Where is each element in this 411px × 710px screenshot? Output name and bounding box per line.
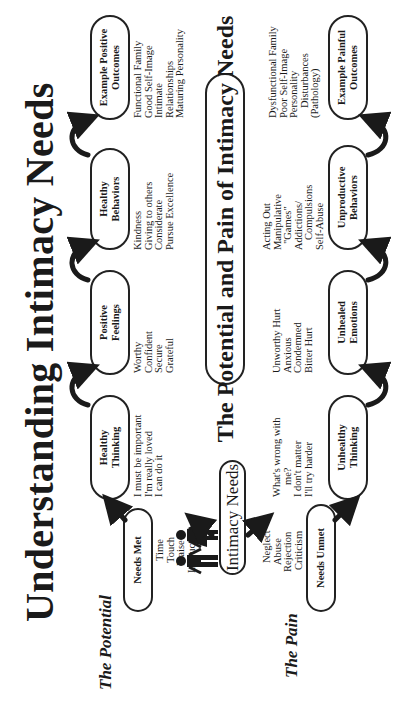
diagram-canvas: Understanding Intimacy Needs The Potenti…: [0, 0, 411, 710]
straight-arrow-icon: [335, 505, 350, 520]
curved-arrow-icon: [368, 245, 386, 280]
curved-arrow-icon: [368, 370, 386, 405]
flow-arrows: [0, 0, 411, 710]
straight-arrow-icon: [248, 522, 263, 535]
curved-arrow-icon: [72, 370, 88, 405]
curved-arrow-icon: [72, 245, 88, 280]
straight-arrow-icon: [112, 505, 125, 520]
curved-arrow-icon: [72, 120, 88, 155]
curved-arrow-icon: [368, 120, 386, 155]
straight-arrow-icon: [196, 522, 212, 535]
